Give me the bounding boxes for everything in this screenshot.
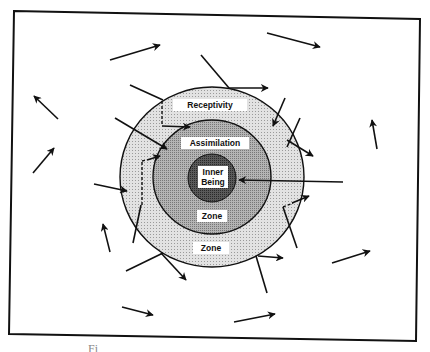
inner-being-label: Inner Being <box>198 166 228 188</box>
arrow <box>332 251 370 263</box>
arrow <box>267 33 320 47</box>
inner-label-line1: Inner <box>200 167 226 177</box>
arrow <box>122 307 153 315</box>
arrow <box>103 224 110 252</box>
arrow <box>234 314 275 322</box>
inner-label-line2: Being <box>200 177 226 187</box>
receptivity-label: Receptivity <box>173 99 247 111</box>
caption-fragment: Fi <box>88 344 98 352</box>
assimilation-label: Assimilation <box>181 137 249 149</box>
arrow <box>258 256 283 258</box>
arrow <box>110 45 160 60</box>
receptivity-zone-label: Zone <box>193 242 229 254</box>
arrow <box>372 120 377 149</box>
arrow <box>162 126 190 127</box>
assimilation-zone-label: Zone <box>197 210 227 222</box>
arrow <box>34 96 58 119</box>
arrow <box>33 148 54 173</box>
